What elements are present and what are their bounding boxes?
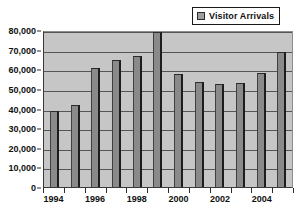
y-tick-mark — [37, 50, 41, 51]
x-tick-mark — [293, 188, 294, 193]
legend-swatch-icon — [197, 12, 205, 20]
y-tick-label: 10,000 — [8, 164, 36, 173]
bar-slot — [44, 32, 65, 187]
x-tick-label: 1998 — [127, 195, 147, 204]
bar[interactable] — [215, 84, 224, 187]
bar-slot — [230, 32, 251, 187]
x-axis: 199419961998200020022004 — [43, 188, 293, 217]
x-tick-mark — [64, 188, 65, 193]
bar[interactable] — [236, 83, 245, 187]
y-tick-mark — [37, 70, 41, 71]
plot-area — [43, 31, 293, 188]
y-tick-label: 60,000 — [8, 66, 36, 75]
bar[interactable] — [112, 60, 121, 187]
x-tick-label: 2002 — [210, 195, 230, 204]
x-tick-mark — [147, 188, 148, 193]
bar[interactable] — [195, 82, 204, 187]
y-axis: 010,00020,00030,00040,00050,00060,00070,… — [0, 31, 41, 188]
y-tick-mark — [37, 129, 41, 130]
y-tick-mark — [37, 89, 41, 90]
y-tick-mark — [37, 31, 41, 32]
legend-label: Visitor Arrivals — [209, 12, 274, 21]
bar-slot — [168, 32, 189, 187]
chart-legend: Visitor Arrivals — [192, 7, 280, 25]
bar-slot — [106, 32, 127, 187]
y-tick-mark — [37, 188, 41, 189]
bar[interactable] — [277, 52, 286, 187]
x-tick-labels: 199419961998200020022004 — [43, 195, 293, 209]
x-tick-label: 2004 — [252, 195, 272, 204]
y-tick-mark — [37, 109, 41, 110]
bar-slot — [189, 32, 210, 187]
y-tick-label: 40,000 — [8, 105, 36, 114]
x-tick-mark — [231, 188, 232, 193]
y-tick-label: 20,000 — [8, 144, 36, 153]
x-tick-label: 1994 — [43, 195, 63, 204]
x-tick-mark — [43, 188, 44, 193]
x-tick-mark — [106, 188, 107, 193]
bar[interactable] — [50, 111, 59, 187]
bar[interactable] — [153, 32, 162, 187]
y-tick-label: 30,000 — [8, 125, 36, 134]
y-tick-label: 0 — [31, 184, 36, 193]
x-tick-mark — [251, 188, 252, 193]
bar-slot — [209, 32, 230, 187]
bar[interactable] — [174, 74, 183, 187]
y-tick-label: 50,000 — [8, 85, 36, 94]
bar-slot — [85, 32, 106, 187]
x-tick-mark — [210, 188, 211, 193]
y-tick-mark — [37, 168, 41, 169]
y-tick-label: 80,000 — [8, 27, 36, 36]
x-tick-label: 2000 — [168, 195, 188, 204]
bar-slot — [147, 32, 168, 187]
x-tick-label: 1996 — [85, 195, 105, 204]
bar-slot — [271, 32, 292, 187]
x-tick-marks — [43, 188, 293, 193]
bar-slot — [251, 32, 272, 187]
bar[interactable] — [133, 56, 142, 187]
y-tick-label: 70,000 — [8, 46, 36, 55]
bar[interactable] — [257, 73, 266, 187]
bar-series-visitor-arrivals — [44, 32, 292, 187]
bar-slot — [65, 32, 86, 187]
y-tick-mark — [37, 148, 41, 149]
bar-chart: Visitor Arrivals 010,00020,00030,00040,0… — [0, 0, 303, 217]
x-tick-mark — [272, 188, 273, 193]
x-tick-mark — [85, 188, 86, 193]
bar[interactable] — [91, 68, 100, 187]
x-tick-mark — [126, 188, 127, 193]
bar-slot — [127, 32, 148, 187]
x-tick-mark — [189, 188, 190, 193]
bar[interactable] — [71, 105, 80, 187]
x-tick-mark — [168, 188, 169, 193]
